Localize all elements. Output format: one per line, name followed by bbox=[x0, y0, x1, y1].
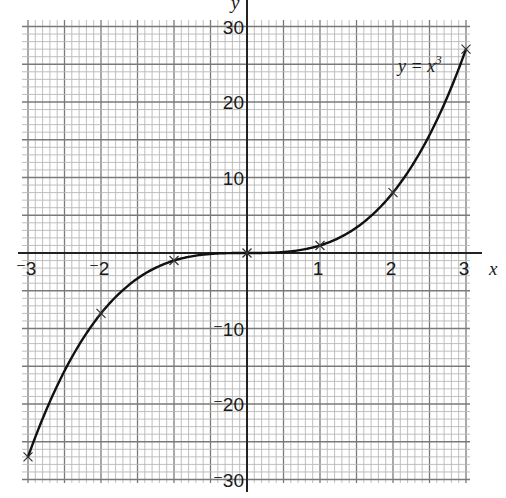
y-tick-label: ⁻20 bbox=[213, 394, 244, 415]
x-tick-label: ⁻3 bbox=[16, 258, 37, 279]
y-tick-label: 20 bbox=[223, 92, 244, 113]
x-tick-label: 2 bbox=[386, 258, 397, 279]
y-axis-label: y bbox=[229, 0, 240, 13]
y-tick-label: 30 bbox=[223, 17, 244, 38]
x-tick-label: 1 bbox=[313, 258, 324, 279]
function-label-exponent: 3 bbox=[434, 52, 442, 67]
cubic-graph: ⁻3⁻2123302010⁻10⁻20⁻30 x y y = x3 bbox=[0, 0, 506, 498]
x-tick-label: 3 bbox=[459, 258, 470, 279]
function-label-base: y = x bbox=[396, 56, 435, 76]
y-tick-label: ⁻10 bbox=[213, 319, 244, 340]
function-label: y = x3 bbox=[396, 52, 442, 76]
y-tick-label: 10 bbox=[223, 168, 244, 189]
x-tick-label: ⁻2 bbox=[89, 258, 110, 279]
y-tick-label: ⁻30 bbox=[213, 470, 244, 491]
x-axis-label: x bbox=[488, 258, 498, 279]
